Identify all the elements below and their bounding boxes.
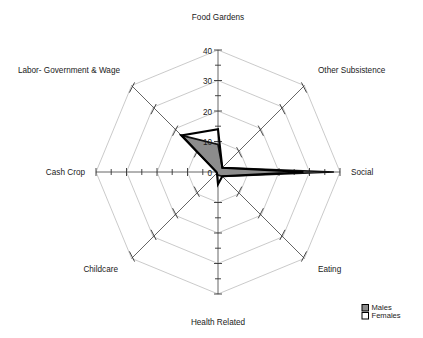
legend-swatch-males bbox=[362, 305, 369, 312]
axis-label-other-subsistence: Other Subsistence bbox=[318, 66, 386, 75]
radial-tick-10: 10 bbox=[203, 138, 213, 147]
axis-label-health-related: Health Related bbox=[191, 318, 246, 327]
legend-label-females[interactable]: Females bbox=[372, 311, 401, 320]
radar-chart-svg: 0 10 20 30 40 Food Gardens Other Subsist… bbox=[0, 0, 423, 338]
radial-tick-20: 20 bbox=[203, 108, 213, 117]
axis-label-cash-crop: Cash Crop bbox=[46, 168, 86, 177]
radial-tick-30: 30 bbox=[203, 77, 213, 86]
axis-label-social: Social bbox=[351, 168, 373, 177]
radar-chart-container: 0 10 20 30 40 Food Gardens Other Subsist… bbox=[0, 0, 423, 338]
axis-label-food-gardens: Food Gardens bbox=[192, 13, 244, 22]
radial-tick-0: 0 bbox=[207, 169, 212, 178]
axis-label-childcare: Childcare bbox=[83, 265, 118, 274]
legend-swatch-females bbox=[362, 313, 369, 320]
axis-label-eating: Eating bbox=[318, 265, 342, 274]
axis-label-labor-government-wage: Labor- Government & Wage bbox=[18, 66, 121, 75]
radial-tick-40: 40 bbox=[203, 47, 213, 56]
chart-legend: Males Females bbox=[362, 303, 401, 320]
radar-axis-labels: Food Gardens Other Subsistence Social Ea… bbox=[18, 13, 386, 327]
